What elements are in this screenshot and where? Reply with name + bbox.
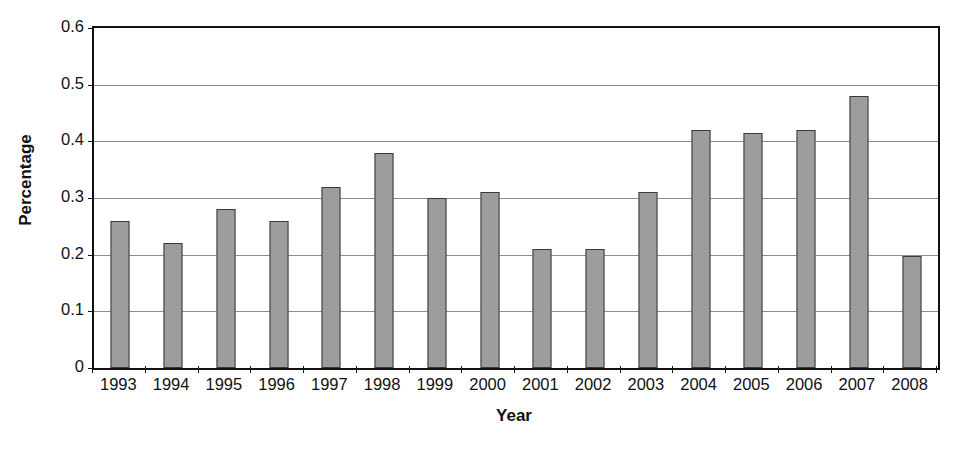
bar[interactable]: [322, 187, 341, 368]
x-tick-mark: [936, 366, 937, 373]
bar-slot: [780, 28, 833, 368]
x-tick-mark: [514, 366, 515, 373]
x-tick-mark: [356, 366, 357, 373]
bar[interactable]: [427, 198, 446, 368]
y-tick-mark: [88, 198, 94, 199]
y-tick-mark: [88, 141, 94, 142]
bar[interactable]: [111, 221, 130, 368]
y-tick-mark: [88, 85, 94, 86]
y-axis-title: Percentage: [16, 110, 36, 250]
bar[interactable]: [797, 130, 816, 368]
y-tick-label: 0: [38, 357, 84, 376]
x-tick-label: 2000: [461, 375, 514, 394]
x-tick-label: 1994: [145, 375, 198, 394]
y-tick-mark: [88, 311, 94, 312]
bar[interactable]: [744, 133, 763, 368]
bar[interactable]: [480, 192, 499, 368]
x-tick-label: 1995: [198, 375, 251, 394]
x-tick-label: 2001: [514, 375, 567, 394]
y-tick-mark: [88, 28, 94, 29]
x-tick-mark: [567, 366, 568, 373]
bar[interactable]: [638, 192, 657, 368]
x-tick-mark: [409, 366, 410, 373]
bar-slot: [358, 28, 411, 368]
x-tick-mark: [250, 366, 251, 373]
bar-slot: [94, 28, 147, 368]
bar-slot: [200, 28, 253, 368]
plot-area: [92, 26, 940, 370]
bar[interactable]: [902, 256, 921, 368]
bar-slot: [833, 28, 886, 368]
y-tick-label: 0.4: [38, 130, 84, 149]
x-tick-label: 2007: [831, 375, 884, 394]
bar-slot: [516, 28, 569, 368]
x-tick-mark: [778, 366, 779, 373]
y-tick-label: 0.3: [38, 187, 84, 206]
x-tick-mark: [92, 366, 93, 373]
bar[interactable]: [849, 96, 868, 368]
bar-chart: Percentage 0.60.50.40.30.20.10 199319941…: [0, 0, 954, 452]
x-tick-mark: [198, 366, 199, 373]
bar-slot: [674, 28, 727, 368]
x-tick-label: 1997: [303, 375, 356, 394]
bar-slot: [727, 28, 780, 368]
x-tick-mark: [145, 366, 146, 373]
y-tick-label: 0.5: [38, 73, 84, 92]
x-tick-mark: [303, 366, 304, 373]
x-tick-label: 1993: [92, 375, 145, 394]
x-tick-label: 2004: [672, 375, 725, 394]
y-tick-label: 0.1: [38, 300, 84, 319]
bar-slot: [411, 28, 464, 368]
bar-slot: [147, 28, 200, 368]
bar[interactable]: [216, 209, 235, 368]
x-tick-mark: [883, 366, 884, 373]
y-tick-label: 0.6: [38, 17, 84, 36]
bar[interactable]: [375, 153, 394, 368]
x-tick-label: 2005: [725, 375, 778, 394]
y-tick-mark: [88, 255, 94, 256]
bar-slot: [305, 28, 358, 368]
bar-slot: [252, 28, 305, 368]
bar-slot: [622, 28, 675, 368]
x-tick-mark: [725, 366, 726, 373]
bars-layer: [94, 28, 938, 368]
x-tick-label: 2002: [567, 375, 620, 394]
x-tick-label: 1999: [409, 375, 462, 394]
bar-slot: [569, 28, 622, 368]
bar-slot: [463, 28, 516, 368]
x-tick-mark: [620, 366, 621, 373]
x-tick-label: 1996: [250, 375, 303, 394]
bar[interactable]: [691, 130, 710, 368]
bar[interactable]: [269, 221, 288, 368]
y-axis-tick-labels: 0.60.50.40.30.20.10: [38, 0, 84, 452]
x-tick-label: 2006: [778, 375, 831, 394]
x-tick-label: 2008: [883, 375, 936, 394]
bar[interactable]: [586, 249, 605, 368]
x-tick-mark: [831, 366, 832, 373]
x-tick-label: 1998: [356, 375, 409, 394]
bar[interactable]: [164, 243, 183, 368]
y-tick-label: 0.2: [38, 243, 84, 262]
x-tick-label: 2003: [620, 375, 673, 394]
x-tick-mark: [672, 366, 673, 373]
y-tick-mark: [88, 368, 94, 369]
x-tick-mark: [461, 366, 462, 373]
x-axis-title: Year: [92, 406, 936, 426]
bar-slot: [885, 28, 938, 368]
bar[interactable]: [533, 249, 552, 368]
